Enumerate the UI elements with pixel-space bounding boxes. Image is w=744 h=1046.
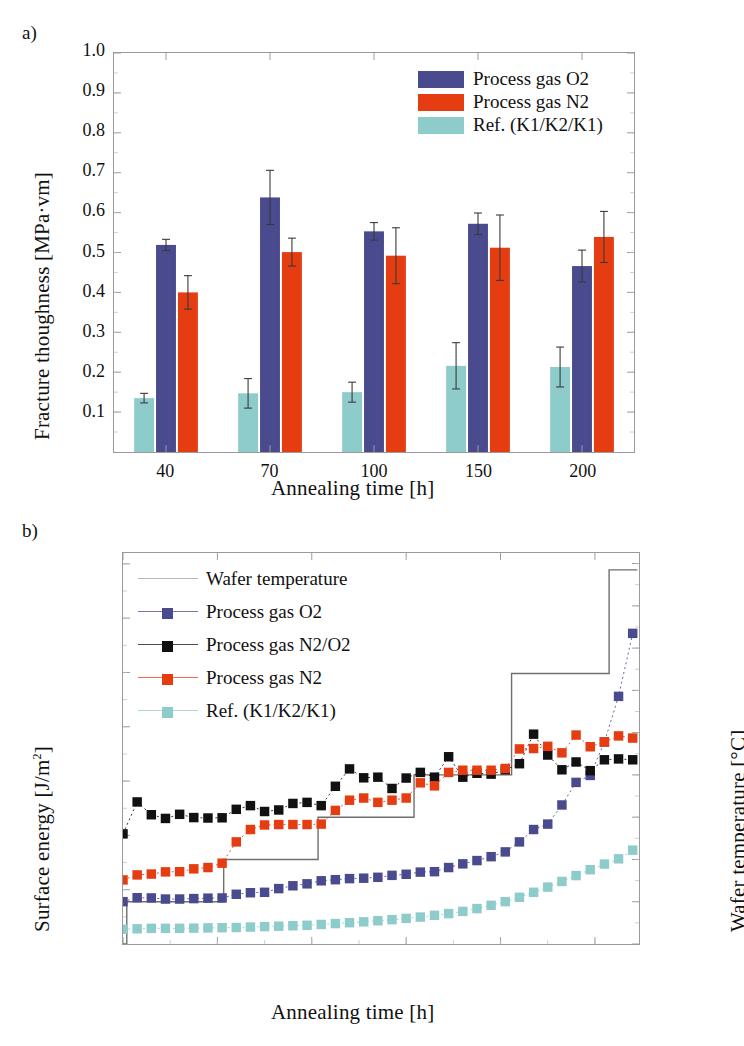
panel-b-legend-item: Process gas O2 [138,595,351,628]
panel-b-legend-label: Process gas N2 [206,667,322,689]
panel-b-legend-marker [138,638,198,652]
panel-b-y-axis-title: Surface energy [J/m2] [30,746,55,932]
panel-b-legend-item: Process gas N2 [138,661,351,694]
panel-a-legend-label: Process gas N2 [473,91,589,113]
panel-b-legend-label: Wafer temperature [206,568,347,590]
panel-b-surface-energy-chart: b) Surface energy [J/m2] Wafer temperatu… [0,500,744,1046]
panel-a-y-tick: 0.3 [53,321,105,342]
panel-b-x-axis-title: Annealing time [h] [271,1000,434,1025]
panel-a-y-tick: 0.8 [53,120,105,141]
panel-b-legend-square [162,641,173,652]
panel-b-legend-marker [138,704,198,718]
panel-b-legend-square [162,608,173,619]
panel-b-y2-axis-title: Wafer temperature [°C] [726,730,744,932]
panel-b-legend-item: Ref. (K1/K2/K1) [138,694,351,727]
panel-b-legend-item: Process gas N2/O2 [138,628,351,661]
panel-a-x-tick: 200 [543,461,623,482]
panel-a-y-tick: 0.2 [53,361,105,382]
panel-b-legend-marker [138,671,198,685]
panel-a-legend-item: Process gas O2 [418,68,603,90]
panel-a-y-tick: 0.5 [53,241,105,262]
panel-a-legend-label: Ref. (K1/K2/K1) [473,114,603,136]
panel-b-legend-marker [138,605,198,619]
panel-b-legend-square [162,707,173,718]
panel-b-legend-item: Wafer temperature [138,562,351,595]
panel-a-x-tick: 70 [230,461,310,482]
panel-b-y-axis-title-tail: ] [30,746,54,753]
panel-a-x-tick: 40 [125,461,205,482]
panel-a-y-tick: 0.7 [53,160,105,181]
panel-a-y-tick: 1.0 [53,40,105,61]
panel-a-legend-swatch [418,71,464,88]
panel-a-legend-label: Process gas O2 [473,68,589,90]
panel-b-legend-line [138,578,198,580]
panel-a-legend-swatch [418,94,464,111]
panel-b-legend-label: Process gas O2 [206,601,322,623]
panel-a-x-tick: 150 [438,461,518,482]
panel-b-y-axis-title-main: Surface energy [J/m [30,759,54,932]
panel-b-letter: b) [22,520,38,542]
panel-a-x-tick: 100 [334,461,414,482]
panel-a-fracture-toughness-chart: a) Fracture thoughness [MPa·vm] Annealin… [0,0,744,520]
panel-a-legend-item: Ref. (K1/K2/K1) [418,114,603,136]
panel-a-y-tick: 0.1 [53,401,105,422]
panel-b-legend-label: Ref. (K1/K2/K1) [206,700,336,722]
panel-a-legend-item: Process gas N2 [418,91,603,113]
panel-b-legend-square [162,674,173,685]
panel-b-legend-marker [138,572,198,586]
panel-b-y-axis-title-exponent: 2 [30,753,44,759]
panel-a-y-axis-title: Fracture thoughness [MPa·vm] [30,172,55,440]
panel-a-y-tick: 0.9 [53,80,105,101]
panel-a-letter: a) [22,22,37,44]
panel-b-legend: Wafer temperatureProcess gas O2Process g… [138,562,351,727]
panel-a-y-tick: 0.4 [53,281,105,302]
panel-b-legend-label: Process gas N2/O2 [206,634,351,656]
panel-a-y-tick: 0.6 [53,200,105,221]
panel-a-legend: Process gas O2Process gas N2Ref. (K1/K2/… [418,68,603,137]
panel-a-legend-swatch [418,117,464,134]
